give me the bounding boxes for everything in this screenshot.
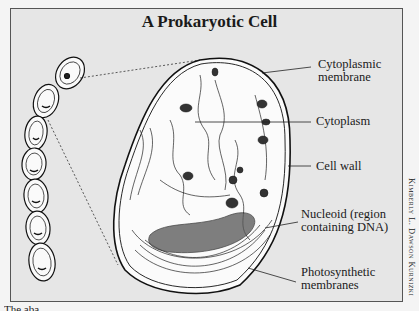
illustrator-credit: Kimberly L. Dawson Kurnizki <box>407 178 417 296</box>
chain-cell <box>23 178 50 214</box>
label-cytoplasm: Cytoplasm <box>316 115 370 128</box>
label-nucleoid: Nucleoid (region containing DNA) <box>301 208 388 234</box>
chain-cell <box>26 241 57 282</box>
label-line: Cytoplasm <box>316 115 370 128</box>
label-photosynthetic-membranes: Photosynthetic membranes <box>301 266 375 292</box>
cell-chain <box>21 52 91 283</box>
chain-cell <box>25 210 52 246</box>
label-line: Cell wall <box>316 160 361 173</box>
label-cell-wall: Cell wall <box>316 160 361 173</box>
chain-cell <box>23 115 50 152</box>
label-cytoplasmic-membrane: Cytoplasmic membrane <box>318 58 381 84</box>
large-cell <box>114 58 290 293</box>
caption-partial: The aba... <box>4 304 47 311</box>
chain-cell <box>21 147 48 181</box>
label-line: containing DNA) <box>301 221 388 234</box>
chain-cell <box>29 81 63 121</box>
label-line: membranes <box>301 279 375 292</box>
label-line: membrane <box>318 71 381 84</box>
